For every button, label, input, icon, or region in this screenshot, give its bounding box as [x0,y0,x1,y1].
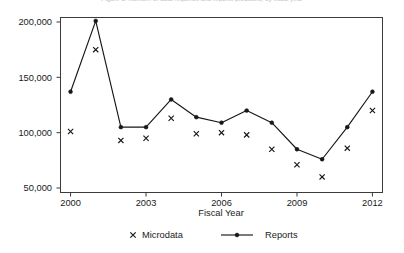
legend-label: Microdata [142,230,184,240]
legend-marker-dot [235,233,239,237]
legend-marker-cross [130,232,135,237]
data-point-marker [69,90,73,94]
x-axis-tick-marks [71,193,373,197]
y-tick-label: 100,000 [18,128,52,138]
y-tick-label: 50,000 [24,183,52,193]
data-point-marker [119,125,123,129]
data-point-marker [345,146,350,151]
legend-item-reports: Reports [221,230,298,240]
data-point-marker [118,138,123,143]
data-point-marker [93,47,98,52]
x-axis-title: Fiscal Year [198,208,243,218]
data-point-marker [143,136,148,141]
data-point-marker [295,147,299,151]
data-point-marker [294,162,299,167]
series-microdata [68,47,375,179]
data-point-marker [320,174,325,179]
plot-area-frame [61,18,383,193]
data-point-marker [245,109,249,113]
x-tick-label: 2000 [60,198,81,208]
data-point-marker [169,116,174,121]
data-point-marker [244,132,249,137]
y-axis-tick-labels: 50,000100,000150,000200,000 [18,17,52,193]
series-polyline [71,21,373,159]
legend-item-microdata: Microdata [130,230,183,240]
data-point-marker [194,115,198,119]
x-tick-label: 2009 [287,198,308,208]
data-point-marker [169,98,173,102]
x-tick-label: 2006 [211,198,232,208]
x-tick-label: 2003 [136,198,157,208]
data-point-marker [94,19,98,23]
data-point-marker [345,125,349,129]
series-reports [69,19,375,161]
x-tick-label: 2012 [362,198,383,208]
data-point-marker [194,131,199,136]
data-point-marker [269,147,274,152]
data-point-marker [219,130,224,135]
legend-label: Reports [265,230,298,240]
chart-legend: MicrodataReports [130,230,298,240]
data-point-marker [220,121,224,125]
line-chart-canvas: 50,000100,000150,000200,000 200020032006… [0,0,404,253]
data-point-marker [144,125,148,129]
data-point-marker [371,90,375,94]
y-tick-label: 150,000 [18,73,52,83]
chart-figure: Figure 1. Number of data requests and re… [0,0,404,253]
y-axis-tick-marks [57,22,61,188]
y-tick-label: 200,000 [18,17,52,27]
data-series-layer [68,19,375,180]
data-point-marker [270,121,274,125]
x-axis-tick-labels: 20002003200620092012 [60,198,383,208]
data-point-marker [68,129,73,134]
data-point-marker [320,157,324,161]
data-point-marker [370,108,375,113]
